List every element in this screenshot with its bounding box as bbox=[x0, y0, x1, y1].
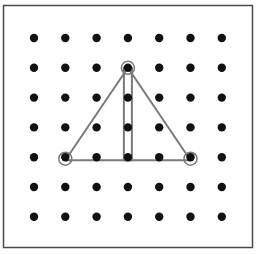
peg-dot bbox=[124, 93, 132, 101]
peg-dot bbox=[218, 213, 226, 221]
peg-dot bbox=[124, 183, 132, 191]
peg-dot bbox=[61, 183, 69, 191]
peg-dot bbox=[218, 64, 226, 72]
peg-dot bbox=[186, 213, 194, 221]
peg-dot bbox=[30, 153, 38, 161]
peg-dot bbox=[155, 93, 163, 101]
peg-dot bbox=[30, 34, 38, 42]
peg-dot bbox=[124, 34, 132, 42]
peg-dot bbox=[61, 123, 69, 131]
peg-dot bbox=[186, 153, 194, 161]
peg-dot bbox=[186, 123, 194, 131]
peg-dot bbox=[92, 64, 100, 72]
peg-dot bbox=[92, 34, 100, 42]
peg-dot bbox=[218, 153, 226, 161]
peg-dot bbox=[124, 213, 132, 221]
peg-dot bbox=[92, 183, 100, 191]
peg-dot bbox=[124, 153, 132, 161]
peg-dot bbox=[218, 183, 226, 191]
peg-dot bbox=[186, 93, 194, 101]
peg-dot bbox=[124, 64, 132, 72]
peg-dot bbox=[155, 64, 163, 72]
peg-dot bbox=[92, 213, 100, 221]
peg-dot bbox=[61, 213, 69, 221]
peg-dot bbox=[124, 123, 132, 131]
peg-dot bbox=[30, 64, 38, 72]
peg-dot bbox=[92, 123, 100, 131]
peg-dot bbox=[155, 153, 163, 161]
peg-dot bbox=[61, 34, 69, 42]
peg-dot bbox=[186, 34, 194, 42]
peg-dot bbox=[218, 93, 226, 101]
peg-dot bbox=[61, 153, 69, 161]
peg-dot bbox=[186, 183, 194, 191]
peg-dot bbox=[155, 123, 163, 131]
peg-dot bbox=[186, 64, 194, 72]
peg-dot bbox=[30, 183, 38, 191]
peg-dot bbox=[30, 213, 38, 221]
peg-dot bbox=[155, 34, 163, 42]
peg-dot bbox=[61, 64, 69, 72]
peg-dot bbox=[30, 123, 38, 131]
peg-dot bbox=[218, 123, 226, 131]
peg-dot bbox=[61, 93, 69, 101]
peg-dot bbox=[155, 183, 163, 191]
peg-dot bbox=[218, 34, 226, 42]
peg-dot bbox=[155, 213, 163, 221]
geoboard-diagram bbox=[0, 0, 265, 254]
peg-dot bbox=[30, 93, 38, 101]
peg-dot bbox=[92, 93, 100, 101]
peg-dot bbox=[92, 153, 100, 161]
